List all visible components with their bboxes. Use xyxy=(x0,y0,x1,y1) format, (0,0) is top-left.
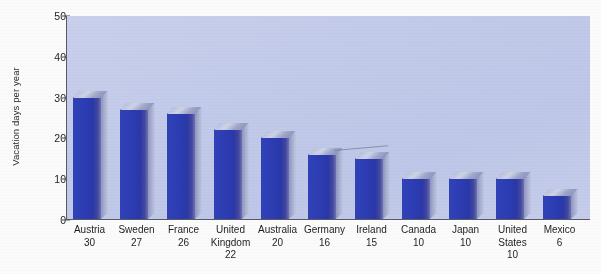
bar-side-face xyxy=(101,90,108,219)
bar-slot xyxy=(208,16,255,219)
bar-slot xyxy=(396,16,443,219)
bar-slot xyxy=(302,16,349,219)
bar[interactable] xyxy=(214,129,242,219)
bar-side-face xyxy=(383,152,390,219)
bar-side-face xyxy=(242,123,249,219)
bar-slot xyxy=(255,16,302,219)
x-axis-label-category: Mexico xyxy=(529,224,591,237)
bar[interactable] xyxy=(308,154,336,219)
bar-side-face xyxy=(289,131,296,219)
bar-slot xyxy=(537,16,584,219)
bar-top-face xyxy=(73,91,107,98)
bar-slot xyxy=(161,16,208,219)
bar-front-face xyxy=(261,137,289,219)
bar[interactable] xyxy=(496,178,524,219)
x-axis-label: Mexico6 xyxy=(529,224,591,249)
bar[interactable] xyxy=(402,178,430,219)
bar[interactable] xyxy=(543,195,571,219)
bar[interactable] xyxy=(355,158,383,219)
bar-slot xyxy=(443,16,490,219)
y-axis-title-text: Vacation days per year xyxy=(10,67,21,166)
x-axis-label-value: 6 xyxy=(529,237,591,250)
bar-side-face xyxy=(524,172,531,219)
bar[interactable] xyxy=(167,113,195,219)
x-axis-label-value: 10 xyxy=(482,249,544,262)
bar-front-face xyxy=(120,109,148,219)
bar-slot xyxy=(67,16,114,219)
y-axis-tick-label: 40 xyxy=(26,51,66,63)
bar-front-face xyxy=(167,113,195,219)
bar-side-face xyxy=(148,103,155,219)
bar-slot xyxy=(114,16,161,219)
bar-top-face xyxy=(543,189,577,196)
y-axis-tick-label: 30 xyxy=(26,92,66,104)
bar-slot xyxy=(349,16,396,219)
x-axis-label-value: 22 xyxy=(200,249,262,262)
bar-front-face xyxy=(73,97,101,219)
bar-front-face xyxy=(543,195,571,219)
bar-front-face xyxy=(449,178,477,219)
bar[interactable] xyxy=(120,109,148,219)
bar[interactable] xyxy=(449,178,477,219)
bar-front-face xyxy=(214,129,242,219)
bar-side-face xyxy=(430,172,437,219)
bar-side-face xyxy=(195,107,202,219)
plot-area xyxy=(66,16,590,220)
bar-side-face xyxy=(336,147,343,219)
y-axis-tick-label: 50 xyxy=(26,10,66,22)
bar[interactable] xyxy=(261,137,289,219)
y-axis-tick-label: 10 xyxy=(26,173,66,185)
bar[interactable] xyxy=(73,97,101,219)
bar-front-face xyxy=(355,158,383,219)
y-axis-title: Vacation days per year xyxy=(4,0,26,232)
vacation-days-bar-chart: Vacation days per year 01020304050 Austr… xyxy=(0,0,601,274)
y-axis-tick-label: 20 xyxy=(26,132,66,144)
bar-slot xyxy=(490,16,537,219)
bar-side-face xyxy=(477,172,484,219)
bar-front-face xyxy=(402,178,430,219)
bar-front-face xyxy=(496,178,524,219)
bar-front-face xyxy=(308,154,336,219)
